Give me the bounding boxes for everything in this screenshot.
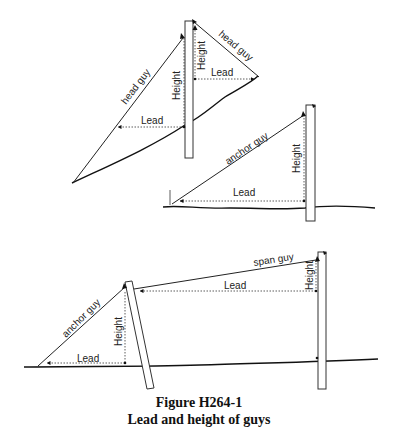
span-guy-label: span guy xyxy=(253,251,295,268)
bottom-diagram: anchor guy Height Lead span guy Height L… xyxy=(24,251,378,389)
bottom-anchor-height-label: Height xyxy=(113,317,124,346)
pole-top xyxy=(185,21,193,158)
bottom-anchor-guy-label: anchor guy xyxy=(60,297,103,340)
pole-middle xyxy=(306,105,315,221)
top-left-height-label: Height xyxy=(171,71,182,100)
middle-diagram: anchor guy Height Lead xyxy=(163,104,375,221)
pole-right xyxy=(318,252,326,389)
slope-ground xyxy=(72,76,258,183)
guy-lead-height-figure: head guy head guy Height Height Lead Lea… xyxy=(0,0,398,441)
top-right-height-label: Height xyxy=(196,41,207,70)
figure-caption-number: Figure H264-1 xyxy=(0,394,398,411)
left-head-guy-line xyxy=(73,38,183,183)
pole-leaning xyxy=(125,281,154,389)
top-right-lead-label: Lead xyxy=(211,67,233,78)
span-lead-label: Lead xyxy=(224,280,246,291)
bottom-anchor-lead-label: Lead xyxy=(77,353,99,364)
top-left-lead-label: Lead xyxy=(141,115,163,126)
figure-caption-title: Lead and height of guys xyxy=(0,411,398,428)
middle-height-label: Height xyxy=(291,144,302,173)
middle-guy-label: anchor guy xyxy=(223,130,270,167)
middle-ground xyxy=(163,206,375,209)
span-height-label: Height xyxy=(304,261,315,290)
middle-lead-label: Lead xyxy=(233,187,255,198)
